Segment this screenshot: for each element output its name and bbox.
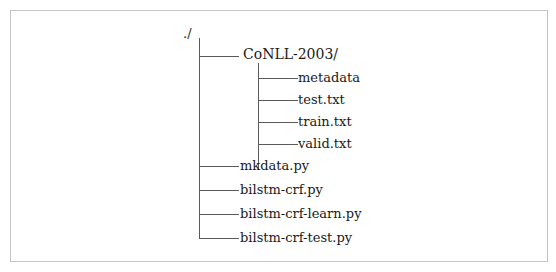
branch-line-conll (199, 56, 239, 57)
folder-conll-2003: CoNLL-2003/ (243, 46, 338, 62)
branch-line-mkdata (199, 166, 239, 167)
root-directory-label: ./ (183, 26, 192, 42)
branch-line-bilstm-crf-learn (199, 214, 239, 215)
branch-line-bilstm-crf (199, 190, 239, 191)
file-bilstm-crf-py: bilstm-crf.py (240, 182, 323, 198)
file-mkdata-py: mkdata.py (240, 158, 309, 174)
file-bilstm-crf-test-py: bilstm-crf-test.py (240, 230, 352, 246)
root-trunk-line (199, 38, 200, 239)
file-valid-txt: valid.txt (298, 136, 352, 152)
file-test-txt: test.txt (298, 92, 345, 108)
branch-line-valid (258, 144, 298, 145)
file-metadata: metadata (298, 70, 360, 86)
conll-trunk-line (258, 63, 259, 170)
file-bilstm-crf-learn-py: bilstm-crf-learn.py (240, 206, 361, 222)
branch-line-bilstm-crf-test (199, 238, 239, 239)
branch-line-train (258, 122, 298, 123)
branch-line-test (258, 100, 298, 101)
file-train-txt: train.txt (298, 114, 352, 130)
branch-line-metadata (258, 78, 298, 79)
